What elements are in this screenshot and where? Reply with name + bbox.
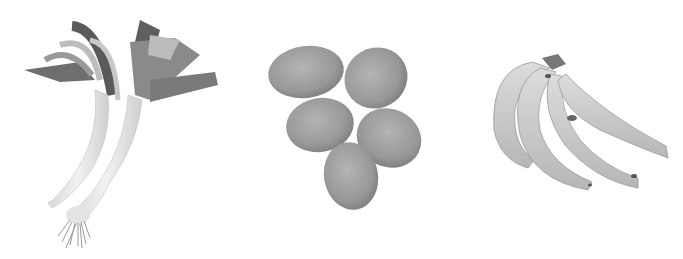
leeks-image — [0, 0, 240, 259]
bananas-image — [470, 40, 683, 210]
photo-scene — [0, 0, 683, 259]
eggs-image — [250, 30, 440, 220]
